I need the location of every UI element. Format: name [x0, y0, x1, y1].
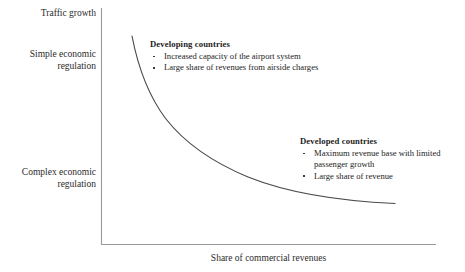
diagram-canvas: Traffic growth Simple economic regulatio… [0, 0, 465, 272]
bullet-square-icon [153, 56, 155, 58]
bullet-square-icon [303, 175, 305, 177]
bullet-text: Large share of revenues from airside cha… [164, 62, 318, 72]
bullet-item: Large share of revenue [300, 171, 465, 182]
x-axis-label: Share of commercial revenues [101, 253, 436, 265]
annotation-developed-title: Developed countries [300, 136, 465, 147]
annotation-developing-bullets: Increased capacity of the airport system… [150, 51, 350, 73]
annotation-developed-bullets: Maximum revenue base with limited passen… [300, 148, 465, 182]
y-axis-top-label: Traffic growth [6, 8, 96, 20]
bullet-item: Maximum revenue base with limited passen… [300, 148, 465, 170]
annotation-developing-title: Developing countries [150, 39, 350, 50]
bullet-text: Increased capacity of the airport system [164, 51, 301, 61]
y-axis-simple-regulation-label: Simple economic regulation [6, 49, 96, 72]
bullet-square-icon [153, 67, 155, 69]
bullet-text: Maximum revenue base with limited passen… [314, 148, 441, 169]
bullet-square-icon [303, 153, 305, 155]
y-axis-complex-regulation-label: Complex economic regulation [6, 167, 96, 190]
bullet-item: Large share of revenues from airside cha… [150, 62, 350, 73]
bullet-item: Increased capacity of the airport system [150, 51, 350, 62]
annotation-developed-countries: Developed countries Maximum revenue base… [300, 136, 465, 182]
annotation-developing-countries: Developing countries Increased capacity … [150, 39, 350, 74]
bullet-text: Large share of revenue [314, 171, 393, 181]
